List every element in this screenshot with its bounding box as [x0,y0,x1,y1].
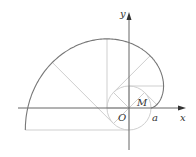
y-axis-arrow-icon [127,12,132,20]
x-axis-arrow-icon [178,106,186,111]
tangent-line [113,56,150,93]
point-m-label: M [136,97,148,108]
tangent-lines [25,39,163,130]
x-axis-label: x [180,112,186,123]
radius-line [113,92,129,108]
tangent-line [52,62,113,123]
origin-label: O [118,112,126,123]
involute-curve [25,39,163,130]
involute-diagram: x y O a M [0,0,196,157]
point-a-label: a [152,112,158,123]
y-axis-label: y [119,8,126,19]
